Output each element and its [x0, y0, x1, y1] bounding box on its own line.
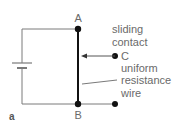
resistance-leader-line: [82, 80, 117, 84]
battery-icon: [12, 63, 32, 68]
circuit-diagram: A B C sliding contact uniform resistance…: [0, 0, 179, 132]
label-b: B: [75, 109, 82, 121]
battery-loop-wires: [22, 29, 115, 104]
label-wire: wire: [120, 87, 141, 99]
label-a: A: [75, 12, 83, 24]
node-b: [75, 101, 81, 107]
node-output: [112, 101, 118, 107]
label-c: C: [121, 50, 129, 62]
figure-label: a: [9, 111, 15, 122]
sliding-contact-arrow: [81, 54, 115, 59]
bottom-wire: [22, 68, 78, 104]
top-wire: [22, 29, 78, 63]
arrowhead-icon: [81, 54, 87, 59]
label-resistance: resistance: [121, 74, 171, 86]
node-a: [75, 26, 81, 32]
label-uniform: uniform: [121, 62, 158, 74]
label-sliding: sliding: [112, 23, 143, 35]
label-contact: contact: [112, 36, 147, 48]
